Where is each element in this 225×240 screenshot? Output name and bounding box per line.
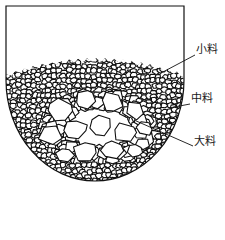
stone	[10, 53, 16, 59]
stone	[27, 170, 34, 175]
stone	[160, 178, 167, 183]
stone	[115, 54, 121, 59]
stone	[27, 179, 33, 185]
stone	[180, 177, 187, 183]
stone	[7, 68, 13, 74]
stone	[74, 143, 97, 161]
stone	[68, 55, 74, 60]
stone	[132, 53, 138, 59]
label-small-material: 小料	[196, 44, 218, 55]
stone	[164, 165, 171, 170]
stone	[141, 179, 148, 185]
stone	[177, 133, 183, 139]
stone	[167, 148, 173, 154]
stone	[151, 55, 158, 60]
stone	[36, 173, 43, 179]
stone	[147, 176, 153, 182]
stone	[21, 155, 27, 160]
stone	[16, 179, 22, 185]
stone	[0, 109, 6, 115]
stone	[20, 169, 26, 175]
stone	[80, 53, 87, 58]
stone	[171, 53, 177, 58]
stone	[146, 174, 153, 180]
label-medium-material: 中料	[191, 93, 213, 104]
stone	[20, 147, 27, 153]
stone	[177, 143, 184, 148]
stone	[24, 163, 31, 168]
stone	[120, 180, 126, 185]
stone	[177, 68, 183, 74]
stone	[154, 173, 161, 179]
stone	[172, 174, 179, 179]
stone	[0, 79, 6, 84]
stone	[25, 113, 31, 118]
stone	[166, 154, 172, 160]
stone	[22, 67, 28, 73]
stone	[69, 180, 76, 186]
stone	[57, 54, 63, 59]
stone	[42, 179, 48, 185]
stone	[139, 172, 146, 177]
stone	[181, 147, 187, 152]
stone	[160, 149, 167, 155]
stone	[51, 177, 57, 183]
stone	[1, 154, 8, 159]
stone	[31, 169, 38, 175]
stone	[111, 54, 117, 59]
stone	[10, 143, 16, 149]
stone	[15, 163, 22, 169]
stone	[47, 54, 52, 60]
stone	[157, 168, 164, 174]
stone	[15, 72, 22, 77]
stone	[26, 174, 32, 180]
stone	[12, 153, 19, 158]
stone	[31, 174, 38, 180]
stone	[172, 153, 179, 159]
stone	[52, 174, 59, 179]
stone	[180, 127, 187, 133]
stone	[164, 58, 170, 64]
stone	[21, 178, 28, 183]
stone	[62, 177, 69, 182]
stone	[171, 179, 177, 184]
stone	[7, 133, 14, 138]
stone	[7, 167, 14, 173]
stone	[172, 168, 179, 174]
stone	[181, 112, 187, 117]
stone	[39, 172, 46, 177]
stone	[6, 162, 12, 168]
stone	[60, 84, 66, 89]
stone	[170, 158, 177, 163]
stone	[35, 54, 41, 59]
stone	[97, 54, 103, 59]
stone	[142, 52, 148, 58]
stone	[0, 179, 7, 185]
stone	[60, 162, 65, 168]
stone	[180, 135, 188, 141]
stone	[4, 177, 11, 183]
stone	[1, 102, 7, 107]
stone	[125, 177, 130, 183]
stone	[50, 54, 56, 59]
stone	[64, 121, 88, 139]
stone	[180, 175, 186, 180]
stone	[36, 58, 42, 64]
stone	[1, 119, 7, 124]
stone	[162, 152, 169, 157]
stone	[8, 123, 14, 128]
stone	[4, 148, 11, 153]
stone	[126, 53, 132, 58]
stone	[15, 55, 21, 60]
stone	[177, 129, 184, 134]
stone	[136, 53, 142, 59]
stone	[75, 54, 81, 59]
stone	[180, 67, 186, 72]
stone	[176, 123, 183, 128]
stone	[1, 100, 8, 106]
stone	[125, 63, 130, 69]
stone	[30, 165, 36, 170]
stone	[32, 62, 38, 68]
stone	[177, 58, 183, 63]
stone	[46, 82, 53, 88]
